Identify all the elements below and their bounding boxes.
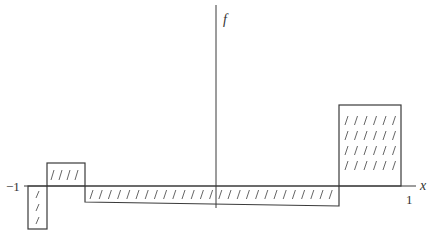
segment-1: [28, 186, 47, 229]
segment-3: [85, 186, 339, 206]
segment-2: [47, 163, 85, 186]
function-label: f: [223, 12, 229, 27]
tick-label-one: 1: [406, 192, 413, 207]
step-function-diagram: f x −1 1: [0, 0, 440, 244]
segment-4: [339, 105, 401, 186]
tick-label-minus-one: −1: [6, 179, 20, 194]
x-axis-label: x: [419, 178, 427, 193]
